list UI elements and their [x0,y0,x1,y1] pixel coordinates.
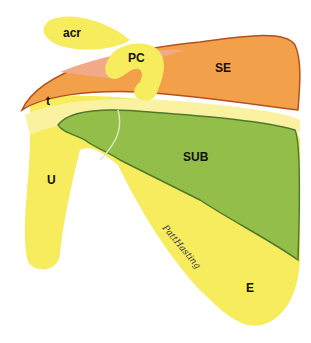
label-sub: SUB [183,150,209,164]
label-pc: PC [128,51,145,65]
label-acr: acr [63,26,81,40]
label-t: t [46,94,50,108]
acromion-shape [44,16,130,49]
label-se: SE [215,61,231,75]
scapula-diagram: acr PC SE t SUB U E PattHasting [0,0,311,343]
label-e: E [246,281,254,295]
label-u: U [47,173,56,187]
